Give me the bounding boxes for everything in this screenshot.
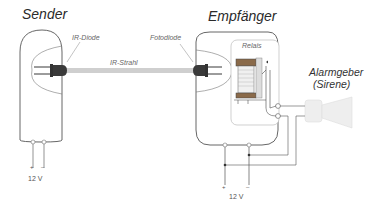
receiver-title: Empfänger: [208, 8, 276, 24]
sender-voltage: 12 V: [28, 175, 42, 182]
sender-minus: –: [41, 164, 44, 170]
sender-plus: +: [30, 164, 34, 170]
ir-beam: [66, 68, 194, 73]
sender-housing: [20, 30, 62, 142]
diagram-canvas: [0, 0, 379, 211]
alarm-label: Alarmgeber: [309, 66, 363, 78]
siren-icon: [305, 97, 352, 128]
receiver-plus: +: [222, 184, 226, 190]
relay-label: Relais: [242, 42, 261, 49]
ir-beam-label: IR-Strahl: [110, 59, 138, 66]
photodiode-label: Fotodiode: [150, 34, 181, 41]
sender-title: Sender: [22, 6, 67, 22]
receiver-voltage: 12 V: [229, 193, 243, 200]
ir-diode-label: IR-Diode: [72, 34, 100, 41]
receiver-minus: –: [246, 184, 249, 190]
siren-label: (Sirene): [313, 78, 350, 90]
